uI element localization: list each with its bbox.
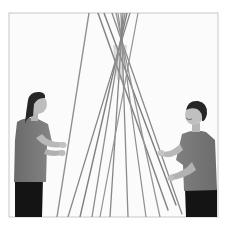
- teepee-photo: [0, 0, 228, 225]
- image-canvas: Two children holding long bamboo poles l…: [0, 0, 228, 225]
